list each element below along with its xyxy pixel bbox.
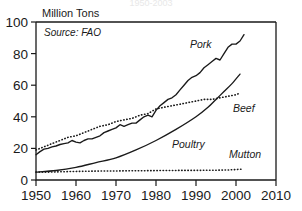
chart-title: 1950-2003 bbox=[129, 0, 172, 8]
x-tick-1990: 1990 bbox=[181, 188, 211, 203]
y-tick-60: 60 bbox=[13, 78, 28, 93]
x-tick-1960: 1960 bbox=[61, 188, 91, 203]
y-tick-0: 0 bbox=[20, 173, 28, 188]
series-label-poultry: Poultry bbox=[172, 138, 205, 150]
y-tick-80: 80 bbox=[13, 47, 28, 62]
y-tick-100: 100 bbox=[5, 15, 28, 30]
series-label-beef: Beef bbox=[233, 102, 256, 114]
x-tick-2000: 2000 bbox=[221, 188, 251, 203]
livestock-production-line-chart: 1950-2003 Million Tons Source: FAO 0 20 … bbox=[0, 0, 302, 211]
x-tick-1950: 1950 bbox=[21, 188, 51, 203]
source-annotation: Source: FAO bbox=[44, 27, 101, 38]
series-line-pork bbox=[36, 35, 244, 155]
series-label-pork: Pork bbox=[190, 38, 212, 50]
chart-container: 1950-2003 Million Tons Source: FAO 0 20 … bbox=[0, 0, 302, 211]
x-axis-ticks bbox=[36, 180, 276, 186]
y-axis-tick-labels: 0 20 40 60 80 100 bbox=[5, 15, 28, 188]
y-tick-20: 20 bbox=[13, 141, 28, 156]
series-line-poultry-corrected bbox=[36, 74, 240, 172]
series-plots bbox=[36, 35, 244, 173]
x-tick-1970: 1970 bbox=[101, 188, 131, 203]
y-axis-unit-label: Million Tons bbox=[42, 7, 100, 19]
x-axis-tick-labels: 1950 1960 1970 1980 1990 2000 2010 bbox=[21, 188, 291, 203]
y-axis-ticks bbox=[31, 22, 36, 180]
x-tick-2010: 2010 bbox=[261, 188, 291, 203]
y-tick-40: 40 bbox=[13, 110, 28, 125]
x-tick-1980: 1980 bbox=[141, 188, 171, 203]
series-label-mutton: Mutton bbox=[229, 148, 261, 160]
